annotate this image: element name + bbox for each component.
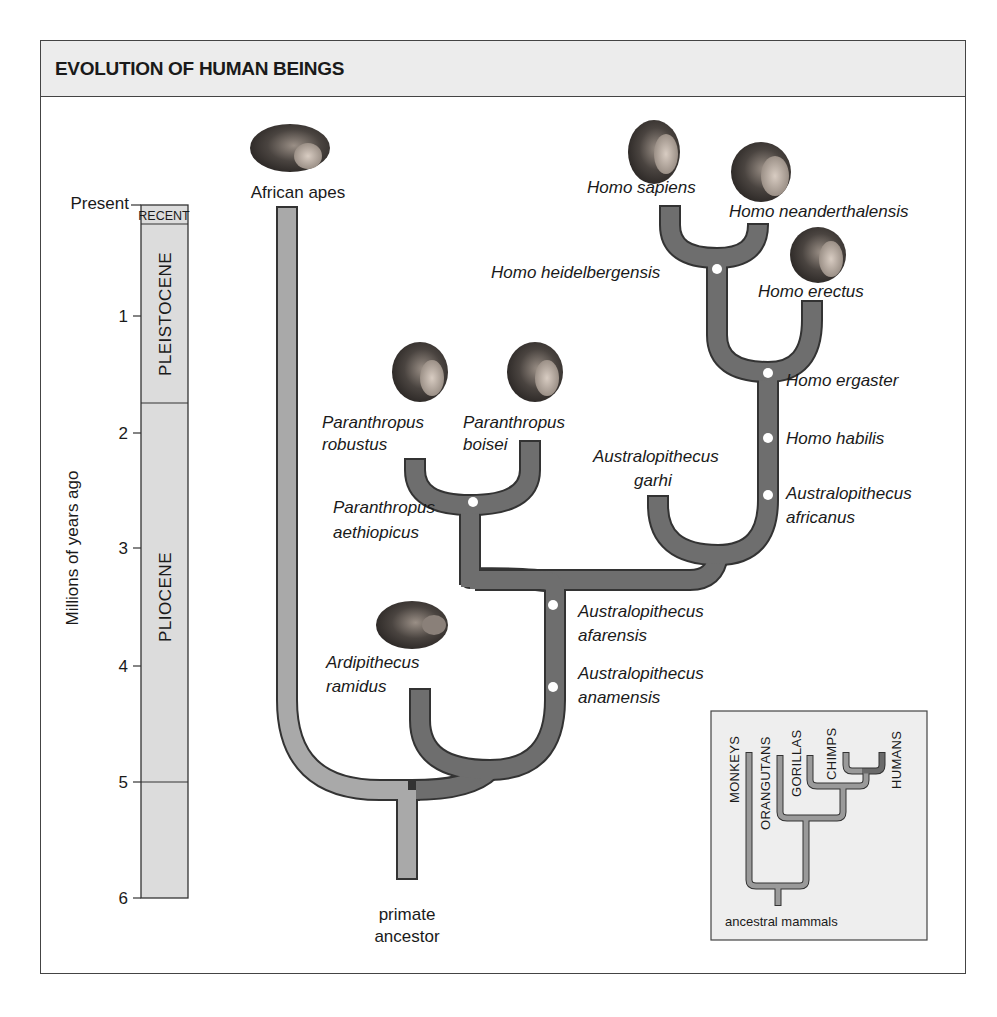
label-p-robustus-genus: Paranthropus — [322, 413, 425, 432]
label-homo-heidelbergensis: Homo heidelbergensis — [491, 263, 661, 282]
tick-present: Present — [70, 194, 129, 213]
epoch-pleistocene: PLEISTOCENE — [156, 252, 175, 376]
tick-1: 1 — [119, 307, 128, 326]
label-a-africanus-genus: Australopithecus — [785, 484, 912, 503]
label-african-apes: African apes — [251, 183, 346, 202]
tick-2: 2 — [119, 424, 128, 443]
inset-label-ancestral-mammals: ancestral mammals — [725, 914, 838, 929]
label-ardipithecus-genus: Ardipithecus — [325, 653, 420, 672]
label-homo-erectus: Homo erectus — [758, 282, 864, 301]
inset-label-gorillas: GORILLAS — [789, 730, 804, 797]
label-primate-ancestor-2: ancestor — [374, 927, 440, 946]
ardipithecus-head-icon — [376, 601, 448, 649]
homo-neanderthalensis-head-icon — [731, 142, 791, 202]
label-a-anamensis-genus: Australopithecus — [577, 664, 704, 683]
label-p-boisei-species: boisei — [463, 435, 509, 454]
inset-cladogram: MONKEYS ORANGUTANS GORILLAS CHIMPS HUMAN… — [711, 711, 927, 940]
african-ape-head-icon — [250, 124, 330, 172]
homo-sapiens-head-icon — [628, 120, 680, 184]
inset-label-orangutans: ORANGUTANS — [758, 736, 773, 830]
tick-4: 4 — [119, 657, 128, 676]
label-primate-ancestor-1: primate — [379, 905, 436, 924]
tick-5: 5 — [119, 773, 128, 792]
homo-erectus-head-icon — [790, 227, 846, 283]
timescale: Millions of years ago RECENT PLEISTOCENE… — [63, 194, 190, 908]
label-a-afarensis-genus: Australopithecus — [577, 602, 704, 621]
paranthropus-boisei-head-icon — [507, 342, 563, 402]
label-a-anamensis-species: anamensis — [578, 688, 661, 707]
label-p-boisei-genus: Paranthropus — [463, 413, 566, 432]
paranthropus-robustus-head-icon — [392, 342, 448, 402]
label-p-robustus-species: robustus — [322, 435, 388, 454]
label-a-garhi-species: garhi — [634, 471, 673, 490]
label-homo-neanderthalensis: Homo neanderthalensis — [729, 202, 909, 221]
inset-label-humans: HUMANS — [889, 731, 904, 789]
label-homo-ergaster: Homo ergaster — [786, 371, 900, 390]
epoch-recent: RECENT — [138, 209, 190, 223]
label-p-aethiopicus-genus: Paranthropus — [333, 498, 436, 517]
tick-3: 3 — [119, 539, 128, 558]
inset-label-chimps: CHIMPS — [824, 728, 839, 780]
label-ardipithecus-species: ramidus — [326, 677, 387, 696]
evolution-tree-diagram: Millions of years ago RECENT PLEISTOCENE… — [0, 0, 997, 1017]
label-homo-habilis: Homo habilis — [786, 429, 885, 448]
axis-label: Millions of years ago — [63, 471, 82, 626]
epoch-pliocene: PLIOCENE — [156, 552, 175, 642]
inset-label-monkeys: MONKEYS — [727, 736, 742, 803]
tick-6: 6 — [119, 889, 128, 908]
label-homo-sapiens: Homo sapiens — [587, 178, 696, 197]
label-p-aethiopicus-species: aethiopicus — [333, 523, 420, 542]
label-a-africanus-species: africanus — [786, 508, 855, 527]
label-a-afarensis-species: afarensis — [578, 626, 647, 645]
label-a-garhi-genus: Australopithecus — [592, 447, 719, 466]
